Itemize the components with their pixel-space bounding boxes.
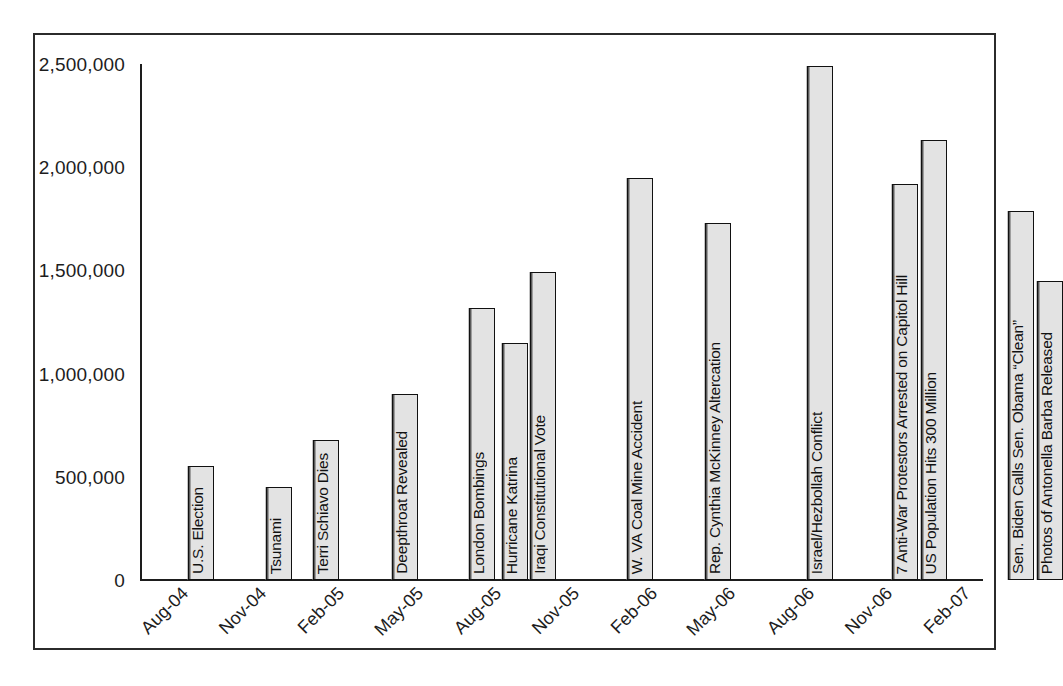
x-axis-tick-labels: Aug-04Nov-04Feb-05May-05Aug-05Nov-05Feb-… [140, 583, 983, 653]
plot-area: U.S. ElectionTsunamiTerri Schiavo DiesDe… [140, 64, 983, 580]
bar-label: W. VA Coal Mine Accident [628, 401, 652, 574]
bar: Hurricane Katrina [502, 343, 528, 580]
bar: Sen. Biden Calls Sen. Obama “Clean” [1008, 211, 1034, 580]
bar: U.S. Election [188, 466, 214, 580]
bar-label: Rep. Cynthia McKinney Altercation [706, 342, 730, 574]
bar-label: London Bombings [470, 452, 494, 574]
bar: Deepthroat Revealed [392, 394, 418, 580]
bar: 7 Anti-War Protestors Arrested on Capito… [892, 184, 918, 580]
bar-label: Terri Schiavo Dies [314, 453, 338, 574]
y-tick-label: 500,000 [55, 468, 133, 487]
bar: Tsunami [266, 487, 292, 580]
bar-label: Israel/Hezbollah Conflict [808, 412, 832, 574]
bar: Terri Schiavo Dies [313, 440, 339, 580]
y-tick-label: 0 [114, 571, 133, 590]
y-axis-line [140, 64, 142, 580]
y-axis-tick-labels: 0500,0001,000,0001,500,0002,000,0002,500… [35, 64, 133, 580]
bar-label: U.S. Election [189, 487, 213, 574]
bar-label: Deepthroat Revealed [393, 431, 417, 574]
bar: Israel/Hezbollah Conflict [807, 66, 833, 580]
bar-label: Iraqi Constitutional Vote [531, 415, 555, 574]
bar-label: Sen. Biden Calls Sen. Obama “Clean” [1009, 320, 1033, 574]
bar: W. VA Coal Mine Accident [627, 178, 653, 580]
y-tick-label: 1,500,000 [39, 261, 133, 280]
bar-label: 7 Anti-War Protestors Arrested on Capito… [893, 275, 917, 574]
bar: London Bombings [469, 308, 495, 580]
bar: US Population Hits 300 Million [921, 140, 947, 580]
bar-label: Hurricane Katrina [503, 457, 527, 574]
chart-frame: 0500,0001,000,0001,500,0002,000,0002,500… [33, 33, 996, 650]
y-tick-label: 2,500,000 [39, 55, 133, 74]
bar: Photos of Antonella Barba Released [1037, 281, 1063, 580]
y-tick-label: 2,000,000 [39, 158, 133, 177]
y-tick-label: 1,000,000 [39, 365, 133, 384]
bar: Rep. Cynthia McKinney Altercation [705, 223, 731, 580]
bar: Iraqi Constitutional Vote [530, 272, 556, 580]
bar-label: US Population Hits 300 Million [922, 372, 946, 575]
bar-label: Photos of Antonella Barba Released [1038, 332, 1062, 574]
bar-label: Tsunami [267, 518, 291, 574]
